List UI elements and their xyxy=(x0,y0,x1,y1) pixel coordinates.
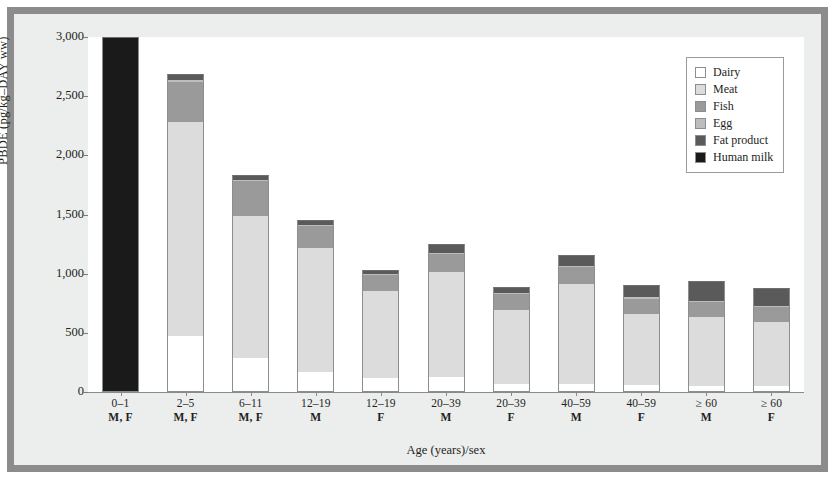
category-sex: F xyxy=(606,410,676,424)
y-axis-tick-label: 1,000 xyxy=(10,266,84,281)
bar-stack[interactable] xyxy=(167,37,204,392)
bar-segment-dairy[interactable] xyxy=(297,372,334,392)
bar-segment-fat-product[interactable] xyxy=(362,270,399,275)
bar-segment-meat[interactable] xyxy=(753,322,790,385)
legend-item[interactable]: Fish xyxy=(695,98,773,115)
bar-segment-fish[interactable] xyxy=(753,307,790,322)
category-age: 0–1 xyxy=(86,396,156,410)
category-age: 12–19 xyxy=(346,396,416,410)
bar-segment-meat[interactable] xyxy=(558,284,595,383)
x-axis-category-label: 12–19F xyxy=(346,396,416,424)
category-sex: F xyxy=(346,410,416,424)
category-age: ≥ 60 xyxy=(736,396,806,410)
bar-segment-dairy[interactable] xyxy=(232,358,269,392)
legend-item[interactable]: Dairy xyxy=(695,64,773,81)
bar-segment-meat[interactable] xyxy=(428,272,465,377)
bar-stack[interactable] xyxy=(623,37,660,392)
figure-container: PBDE (pg/kg–DAY ww) 05001,0001,5002,0002… xyxy=(0,0,835,479)
bar-segment-dairy[interactable] xyxy=(428,377,465,392)
category-sex: M xyxy=(541,410,611,424)
bar-segment-meat[interactable] xyxy=(232,216,269,358)
bar-segment-fish[interactable] xyxy=(428,254,465,272)
bar-segment-fat-product[interactable] xyxy=(688,281,725,301)
x-axis-category-label: 6–11M, F xyxy=(216,396,286,424)
bar-segment-meat[interactable] xyxy=(297,248,334,372)
category-age: 40–59 xyxy=(541,396,611,410)
y-axis-tick-label: 0 xyxy=(10,384,84,399)
bar-segment-fish[interactable] xyxy=(688,302,725,317)
y-axis-tick xyxy=(83,392,88,393)
category-age: 6–11 xyxy=(216,396,286,410)
bar-segment-meat[interactable] xyxy=(167,122,204,336)
y-axis-tick xyxy=(83,155,88,156)
bar-stack[interactable] xyxy=(102,37,139,392)
bar-segment-egg[interactable] xyxy=(232,180,269,182)
legend-item[interactable]: Human milk xyxy=(695,149,773,166)
meat-swatch xyxy=(695,84,706,95)
bar-segment-fat-product[interactable] xyxy=(558,255,595,266)
bar-segment-fish[interactable] xyxy=(623,299,660,314)
bar-segment-human-milk[interactable] xyxy=(102,37,139,392)
bar-stack[interactable] xyxy=(558,37,595,392)
bar-segment-meat[interactable] xyxy=(362,291,399,378)
bar-segment-fat-product[interactable] xyxy=(623,285,660,297)
bar-stack[interactable] xyxy=(428,37,465,392)
bar-segment-dairy[interactable] xyxy=(623,385,660,392)
legend-label: Dairy xyxy=(713,65,740,80)
bar-segment-fish[interactable] xyxy=(558,267,595,284)
bar-segment-egg[interactable] xyxy=(623,297,660,298)
y-axis-labels: PBDE (pg/kg–DAY ww) 05001,0001,5002,0002… xyxy=(0,0,84,479)
bar-segment-egg[interactable] xyxy=(493,293,530,294)
bar-segment-meat[interactable] xyxy=(623,314,660,385)
bar-stack[interactable] xyxy=(493,37,530,392)
bar-segment-egg[interactable] xyxy=(167,80,204,82)
legend-item[interactable]: Meat xyxy=(695,81,773,98)
egg-swatch xyxy=(695,118,706,129)
category-age: 2–5 xyxy=(151,396,221,410)
y-axis-tick xyxy=(83,333,88,334)
y-axis-tick xyxy=(83,96,88,97)
bar-segment-fish[interactable] xyxy=(493,294,530,309)
bar-segment-dairy[interactable] xyxy=(362,378,399,392)
bar-segment-meat[interactable] xyxy=(688,317,725,385)
legend-item[interactable]: Egg xyxy=(695,115,773,132)
bar-stack[interactable] xyxy=(362,37,399,392)
bar-segment-fat-product[interactable] xyxy=(753,288,790,306)
bar-stack[interactable] xyxy=(297,37,334,392)
bar-segment-egg[interactable] xyxy=(428,253,465,254)
bar-segment-egg[interactable] xyxy=(297,225,334,226)
bar-segment-fish[interactable] xyxy=(232,181,269,215)
bar-segment-dairy[interactable] xyxy=(167,336,204,392)
bar-segment-fish[interactable] xyxy=(297,226,334,248)
bar-segment-fat-product[interactable] xyxy=(493,287,530,293)
bar-segment-egg[interactable] xyxy=(688,301,725,302)
bar-segment-fat-product[interactable] xyxy=(297,220,334,225)
y-axis-tick-label: 1,500 xyxy=(10,207,84,222)
bar-segment-fat-product[interactable] xyxy=(428,244,465,253)
bar-stack[interactable] xyxy=(232,37,269,392)
bar-segment-fish[interactable] xyxy=(362,275,399,290)
category-age: ≥ 60 xyxy=(671,396,741,410)
bar-segment-dairy[interactable] xyxy=(558,384,595,392)
bar-segment-dairy[interactable] xyxy=(493,384,530,392)
bar-segment-fat-product[interactable] xyxy=(167,74,204,79)
y-axis-title: PBDE (pg/kg–DAY ww) xyxy=(0,0,11,165)
y-axis-tick xyxy=(83,274,88,275)
legend-label: Fish xyxy=(713,99,734,114)
category-sex: M, F xyxy=(86,410,156,424)
y-axis-tick-label: 3,000 xyxy=(10,29,84,44)
legend-label: Egg xyxy=(713,116,732,131)
bar-segment-egg[interactable] xyxy=(753,306,790,307)
bar-segment-fish[interactable] xyxy=(167,82,204,122)
bar-segment-fat-product[interactable] xyxy=(232,175,269,180)
dairy-swatch xyxy=(695,67,706,78)
category-sex: M, F xyxy=(151,410,221,424)
legend-label: Meat xyxy=(713,82,738,97)
bar-segment-egg[interactable] xyxy=(558,266,595,267)
bar-segment-egg[interactable] xyxy=(362,274,399,275)
y-axis-tick-label: 2,000 xyxy=(10,147,84,162)
x-axis-category-label: 12–19M xyxy=(281,396,351,424)
human-milk-swatch xyxy=(695,152,706,163)
legend-item[interactable]: Fat product xyxy=(695,132,773,149)
bar-segment-meat[interactable] xyxy=(493,310,530,384)
